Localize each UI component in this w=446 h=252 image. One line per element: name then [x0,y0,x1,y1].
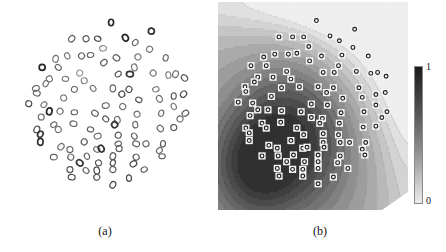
scatter-point-a [165,71,171,78]
scatter-point-a [109,180,117,189]
contour-map-b [218,2,408,210]
scatter-point-a [158,109,165,117]
scatter-point-a [93,173,101,181]
scatter-point-a [75,159,84,168]
scatter-point-a [155,95,163,104]
scatter-point-a [130,132,138,140]
scatter-point-a [135,96,143,103]
scatter-point-a [93,167,100,175]
scatter-point-a [131,38,139,46]
scatter-point-a [171,124,177,130]
scatter-point-a [149,69,157,77]
scatter-point-a [132,140,141,148]
scatter-point-a [152,86,160,93]
scatter-point-a [132,121,138,128]
scatter-point-a [33,125,41,134]
scatter-point-a [109,159,116,167]
scatter-point-a [99,45,107,52]
scatter-point-a [38,138,44,145]
scatter-point-a [77,52,85,60]
scatter-point-a [119,102,127,110]
scatter-point-a [102,102,110,108]
scatter-point-a [42,80,50,88]
scatter-point-a [172,70,180,79]
scatter-point-a [156,124,165,133]
scatter-point-a [67,34,76,43]
scatter-point-a [140,166,148,173]
scatter-point-a [94,35,102,42]
scatter-point-a [67,153,75,161]
panel-a [0,0,215,215]
colorbar-min-label: 0 [426,196,431,206]
scatter-point-a [81,77,88,84]
scatter-point-a [99,58,108,67]
scatter-point-a [129,160,138,168]
scatter-point-a [68,174,76,181]
scatter-point-a [83,152,90,160]
scatter-point-a [80,138,88,146]
scatter-point-a [131,63,138,71]
scatter-point-a [57,142,66,151]
scatter-point-a [37,130,45,138]
scatter-point-a [76,69,84,77]
scatter-point-a [109,166,117,174]
scatter-point-a [162,54,169,62]
scatter-plot-a [0,0,215,215]
scatter-point-a [87,126,94,132]
scatter-point-a [71,110,78,115]
scatter-point-a [39,64,45,70]
scatter-point-a [38,114,44,120]
scatter-point-a [25,100,32,107]
scatter-point-a [110,85,116,92]
scatter-point-a [132,153,140,161]
scatter-point-a [56,107,64,115]
panel-a-caption: (a) [75,224,135,238]
colorbar: 1 0 [414,66,446,206]
scatter-point-a [66,146,73,153]
scatter-point-a [146,45,154,53]
scatter-point-a [126,71,133,77]
scatter-point-a [54,63,62,71]
scatter-point-a [114,70,122,78]
scatter-point-a [159,154,166,159]
scatter-point-a [40,101,48,109]
scatter-point-a [82,35,89,42]
panel-b [218,2,408,210]
scatter-point-a [180,73,189,82]
scatter-point-a [82,166,90,174]
scatter-point-a [64,52,71,60]
scatter-point-a [133,110,141,118]
scatter-point-a [46,107,53,115]
scatter-point-a [60,94,67,101]
panel-b-caption: (b) [290,224,350,238]
scatter-point-a [52,55,59,63]
scatter-point-a [114,131,121,138]
scatter-point-a [112,54,121,62]
scatter-point-a [102,115,110,123]
scatter-point-a [142,140,150,148]
scatter-point-a [171,93,176,100]
scatter-point-a [148,28,155,35]
figure-container: 1 0 (a) (b) [0,0,446,252]
scatter-point-a [62,76,69,82]
scatter-point-a [110,120,118,128]
scatter-point-a [160,140,166,147]
scatter-point-a [170,103,177,111]
scatter-point-a [33,89,41,96]
scatter-point-a [121,33,129,42]
scatter-point-a [91,109,100,117]
scatter-point-a [95,159,102,166]
scatter-point-a [93,132,101,140]
scatter-point-a [126,175,132,182]
colorbar-max-label: 1 [426,62,431,72]
scatter-point-a [67,166,74,173]
scatter-point-a [134,53,142,61]
scatter-point-a [179,90,188,99]
scatter-point-a [50,154,57,160]
scatter-point-a [70,121,78,127]
scatter-point-a [87,52,94,58]
scatter-point-a [45,75,53,83]
scatter-point-a [125,85,133,93]
scatter-point-a [71,86,78,93]
scatter-point-a [89,84,97,92]
